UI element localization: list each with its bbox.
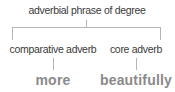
child-stem-line-more (53, 58, 54, 70)
root-stem-line (86, 20, 87, 27)
child-node-label-core-adverb: core adverb (110, 44, 162, 55)
leaf-word-more: more (35, 73, 70, 87)
child-node-label-comparative-adverb: comparative adverb (10, 44, 97, 55)
root-node-label: adverbial phrase of degree (28, 5, 145, 16)
leaf-word-beautifully: beautifully (100, 73, 172, 87)
bracket-left-leg-line (12, 27, 13, 40)
bracket-right-leg-line (160, 27, 161, 40)
child-stem-line-beautifully (136, 58, 137, 70)
bracket-horizontal-line (12, 27, 161, 28)
